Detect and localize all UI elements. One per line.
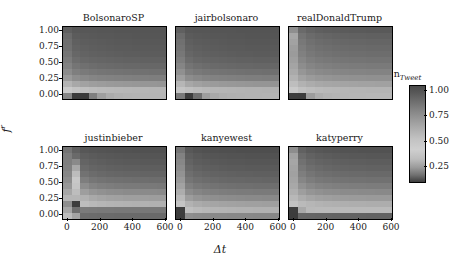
heatmap-cell: [210, 93, 219, 99]
heatmap-cell: [323, 213, 332, 219]
heatmap-cell: [193, 213, 202, 219]
y-tick-mark: [59, 198, 62, 199]
heatmap-row: [63, 213, 166, 219]
x-tick-mark: [180, 218, 181, 221]
x-tick-label: 400: [350, 223, 367, 232]
heatmap-cell: [89, 93, 98, 99]
panel-realdonaldtrump: realDonaldTrump: [288, 26, 391, 98]
y-tick-label: 0.00: [39, 90, 59, 99]
heatmap-cell: [185, 213, 194, 219]
y-tick-label: 1.00: [39, 145, 59, 154]
colorbar-tick-mark: [424, 166, 427, 167]
panel-title: jairbolsonaro: [175, 12, 278, 24]
x-tick-label: 0: [64, 223, 70, 232]
x-tick-mark: [326, 218, 327, 221]
y-tick-mark: [59, 46, 62, 47]
heatmap-cell: [140, 213, 149, 219]
heatmap-cell: [375, 213, 384, 219]
heatmap-plot[interactable]: [62, 26, 167, 100]
heatmap-cell: [236, 93, 245, 99]
heatmap-cell: [123, 93, 132, 99]
heatmap-row: [289, 213, 392, 219]
y-tick-label: 0.25: [39, 74, 59, 83]
heatmap-row: [176, 213, 279, 219]
colorbar-title: nTweet: [385, 68, 430, 82]
heatmap-row: [63, 93, 166, 99]
heatmap-cell: [245, 93, 254, 99]
x-tick-mark: [293, 218, 294, 221]
x-axis-label: Δt: [170, 243, 270, 256]
colorbar-tick-label: 0.75: [429, 111, 449, 120]
heatmap-plot[interactable]: [288, 146, 393, 220]
heatmap-cell: [253, 93, 262, 99]
heatmap-cell: [97, 93, 106, 99]
figure-root: fr Δt BolsonaroSP0.000.250.500.751.00jai…: [0, 0, 473, 265]
colorbar-gradient: [409, 85, 426, 183]
heatmap-cell: [132, 93, 141, 99]
heatmap-cell: [72, 213, 81, 219]
heatmap-cell: [123, 213, 132, 219]
heatmap-cell: [157, 93, 166, 99]
heatmap-plot[interactable]: [175, 26, 280, 100]
heatmap-cell: [185, 93, 194, 99]
y-tick-mark: [59, 30, 62, 31]
heatmap-cell: [149, 213, 158, 219]
x-tick-labels: 0200400600: [288, 223, 391, 234]
x-tick-mark: [132, 218, 133, 221]
panel-katyperry: katyperry0200400600: [288, 146, 391, 218]
x-tick-mark: [358, 218, 359, 221]
y-tick-mark: [59, 214, 62, 215]
x-tick-mark: [100, 218, 101, 221]
colorbar-tick-mark: [424, 115, 427, 116]
x-tick-label: 0: [290, 223, 296, 232]
y-tick-mark: [59, 62, 62, 63]
y-tick-label: 0.75: [39, 41, 59, 50]
colorbar-label-subscript: Tweet: [400, 74, 422, 82]
heatmap-cell: [358, 93, 367, 99]
heatmap-cell: [332, 213, 341, 219]
heatmap-cell: [323, 93, 332, 99]
heatmap-cell: [80, 213, 89, 219]
heatmap-cell: [375, 93, 384, 99]
heatmap-plot[interactable]: [288, 26, 393, 100]
heatmap-cell: [315, 213, 324, 219]
colorbar-tick-mark: [424, 141, 427, 142]
heatmap-cell: [227, 93, 236, 99]
heatmap-cell: [262, 213, 271, 219]
heatmap-cell: [340, 93, 349, 99]
heatmap-cell: [210, 213, 219, 219]
x-tick-label: 200: [317, 223, 334, 232]
heatmap-cell: [315, 93, 324, 99]
heatmap-cell: [298, 93, 307, 99]
x-tick-label: 400: [237, 223, 254, 232]
panel-title: BolsonaroSP: [62, 12, 165, 24]
y-tick-labels: 0.000.250.500.751.00: [35, 146, 59, 218]
y-axis-label: fr: [0, 125, 13, 132]
heatmap-cell: [349, 93, 358, 99]
panel-title: justinbieber: [62, 132, 165, 144]
y-tick-mark: [59, 94, 62, 95]
y-tick-label: 1.00: [39, 25, 59, 34]
y-tick-mark: [59, 78, 62, 79]
heatmap-plot[interactable]: [175, 146, 280, 220]
x-tick-label: 0: [177, 223, 183, 232]
heatmap-cell: [72, 93, 81, 99]
heatmap-cell: [80, 93, 89, 99]
panel-title: kanyewest: [175, 132, 278, 144]
heatmap-cell: [306, 213, 315, 219]
heatmap-cell: [114, 213, 123, 219]
x-tick-label: 200: [91, 223, 108, 232]
heatmap-plot[interactable]: [62, 146, 167, 220]
x-tick-label: 600: [269, 223, 286, 232]
heatmap-cell: [193, 93, 202, 99]
heatmap-cell: [289, 93, 298, 99]
heatmap-cell: [227, 213, 236, 219]
heatmap-row: [176, 93, 279, 99]
x-tick-mark: [165, 218, 166, 221]
panel-title: katyperry: [288, 132, 391, 144]
y-tick-mark: [59, 150, 62, 151]
colorbar-group: nTweet 1.000.750.500.25: [409, 85, 424, 181]
y-tick-labels: 0.000.250.500.751.00: [35, 26, 59, 98]
x-tick-labels: 0200400600: [62, 223, 165, 234]
x-tick-label: 600: [156, 223, 173, 232]
